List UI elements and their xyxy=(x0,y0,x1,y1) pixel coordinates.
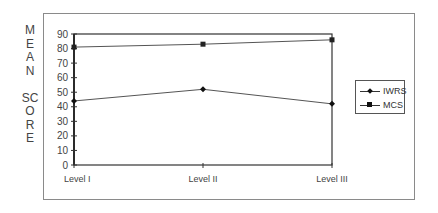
x-tick-label: Level III xyxy=(316,174,348,184)
legend-label: MCS xyxy=(383,100,403,110)
square-marker-icon xyxy=(201,42,206,47)
legend-item-iwrs: IWRS xyxy=(360,85,407,97)
square-marker-icon xyxy=(367,102,372,107)
y-tick-label: 80 xyxy=(57,43,69,54)
diamond-marker-icon xyxy=(200,86,206,92)
y-tick-label: 20 xyxy=(57,130,69,141)
x-tick-label: Level II xyxy=(188,174,217,184)
diamond-marker-icon xyxy=(367,88,373,94)
legend: IWRS MCS xyxy=(355,80,405,114)
diamond-marker-icon xyxy=(329,101,335,107)
y-tick-label: 30 xyxy=(57,116,69,127)
y-tick-label: 0 xyxy=(62,160,68,171)
y-tick-label: 90 xyxy=(57,29,69,40)
y-tick-label: 40 xyxy=(57,101,69,112)
y-tick-label: 10 xyxy=(57,145,69,156)
x-tick-label: Level I xyxy=(64,174,91,184)
y-tick-label: 50 xyxy=(57,87,69,98)
legend-label: IWRS xyxy=(383,86,407,96)
square-marker-icon xyxy=(330,37,335,42)
legend-item-mcs: MCS xyxy=(360,99,403,111)
y-tick-label: 70 xyxy=(57,58,69,69)
diamond-marker-icon xyxy=(71,98,77,104)
y-tick-label: 60 xyxy=(57,72,69,83)
square-marker-icon xyxy=(72,45,77,50)
